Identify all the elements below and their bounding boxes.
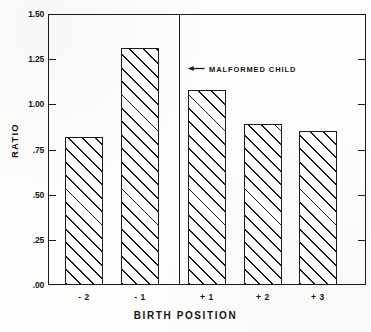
- y-axis-tick-label: 1.00: [4, 99, 44, 109]
- bar: [65, 137, 103, 285]
- y-axis-tick-label: .00: [4, 280, 44, 290]
- reference-divider-line: [179, 14, 180, 285]
- bar-chart-figure: RATIO 1.501.251.00.75.50.25.00 MALFORMED…: [0, 0, 371, 332]
- y-axis-tick-label: 1.25: [4, 54, 44, 64]
- bar: [244, 124, 282, 285]
- y-axis-tick-label: 1.50: [4, 9, 44, 19]
- y-axis-tick-label: .50: [4, 190, 44, 200]
- bar: [188, 90, 226, 285]
- x-axis-tick-label: - 1: [110, 292, 170, 302]
- y-axis-tick-label: .25: [4, 235, 44, 245]
- bar: [299, 131, 337, 285]
- x-axis-tick-label: + 2: [233, 292, 293, 302]
- y-axis-title: RATIO: [9, 111, 20, 171]
- x-axis-title: BIRTH POSITION: [0, 310, 371, 321]
- x-axis-tick-label: + 1: [177, 292, 237, 302]
- x-axis-tick-label: + 3: [288, 292, 348, 302]
- bar: [121, 48, 159, 285]
- left-arrow-icon: [188, 65, 205, 74]
- x-axis-tick-label: - 2: [54, 292, 114, 302]
- annotation-label: MALFORMED CHILD: [209, 65, 296, 74]
- y-axis-tick-label: .75: [4, 145, 44, 155]
- malformed-child-annotation: MALFORMED CHILD: [188, 65, 296, 74]
